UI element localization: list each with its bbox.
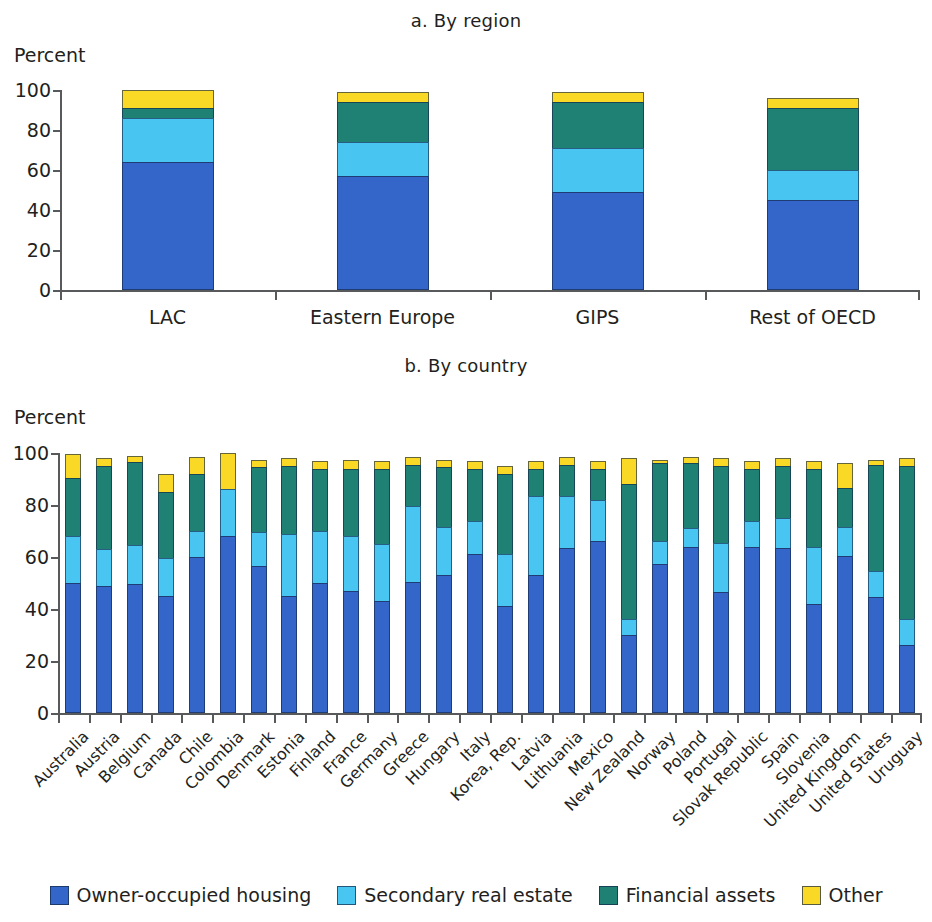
bar-segment	[312, 531, 328, 583]
stacked-bar	[374, 461, 390, 713]
bar-segment	[374, 461, 390, 469]
bar-segment	[767, 170, 859, 200]
x-axis-tick	[212, 715, 214, 723]
bar-segment	[806, 547, 822, 604]
bar-segment	[899, 466, 915, 619]
x-axis-category-label: Rest of OECD	[749, 306, 876, 328]
x-axis-tick	[768, 715, 770, 723]
legend-swatch-icon	[337, 886, 356, 905]
bar-segment	[220, 453, 236, 489]
bar-segment	[683, 528, 699, 546]
y-axis-tick	[51, 453, 58, 455]
y-axis-tick	[51, 661, 58, 663]
bar-segment	[590, 541, 606, 713]
y-axis-tick-label: 60	[27, 161, 51, 180]
x-axis-category-label: LAC	[149, 306, 186, 328]
bar-segment	[713, 592, 729, 713]
x-axis-tick	[60, 292, 62, 300]
bar-segment	[497, 466, 513, 474]
bar-segment	[158, 492, 174, 558]
x-axis-tick	[552, 715, 554, 723]
bar-segment	[899, 619, 915, 645]
x-axis-category-label: GIPS	[576, 306, 620, 328]
bar-segment	[122, 118, 214, 162]
x-axis-tick	[675, 715, 677, 723]
bar-segment	[343, 469, 359, 537]
bar-segment	[590, 500, 606, 542]
bar-segment	[552, 92, 644, 102]
y-axis-tick-label: 40	[27, 201, 51, 220]
bar-segment	[528, 469, 544, 496]
y-axis-tick-label: 100	[15, 81, 51, 100]
bar-segment	[467, 521, 483, 555]
x-axis-tick	[521, 715, 523, 723]
bar-segment	[899, 645, 915, 713]
stacked-bar	[312, 461, 328, 713]
bar-segment	[528, 575, 544, 713]
bar-segment	[467, 469, 483, 521]
bar-segment	[621, 635, 637, 713]
bar-segment	[122, 162, 214, 290]
stacked-bar	[683, 457, 699, 713]
bar-segment	[559, 496, 575, 548]
bar-segment	[158, 474, 174, 492]
x-axis-tick	[860, 715, 862, 723]
bar-segment	[497, 606, 513, 713]
stacked-bar	[899, 458, 915, 713]
bar-segment	[405, 506, 421, 581]
bar-segment	[374, 601, 390, 713]
bar-segment	[337, 142, 429, 176]
bar-segment	[251, 532, 267, 566]
legend-item: Owner-occupied housing	[50, 884, 312, 906]
x-axis-tick	[58, 715, 60, 723]
stacked-bar	[497, 466, 513, 713]
bar-segment	[65, 583, 81, 713]
bar-segment	[436, 527, 452, 575]
bar-segment	[713, 543, 729, 592]
bar-segment	[96, 466, 112, 549]
legend-swatch-icon	[599, 886, 618, 905]
x-axis-tick	[428, 715, 430, 723]
stacked-bar	[775, 458, 791, 713]
stacked-bar	[96, 458, 112, 713]
bar-segment	[96, 586, 112, 713]
stacked-bar-figure: a. By region Percent 020406080100LACEast…	[0, 0, 932, 922]
bar-segment	[343, 536, 359, 591]
bar-segment	[868, 597, 884, 713]
x-axis-tick	[644, 715, 646, 723]
bar-segment	[405, 457, 421, 465]
bar-segment	[251, 460, 267, 468]
legend-item: Other	[802, 884, 883, 906]
y-axis-tick-label: 20	[27, 241, 51, 260]
bar-segment	[127, 545, 143, 584]
bar-segment	[559, 457, 575, 465]
x-axis-tick	[459, 715, 461, 723]
bar-segment	[767, 200, 859, 290]
x-axis-tick	[829, 715, 831, 723]
x-axis-tick	[181, 715, 183, 723]
y-axis-tick	[51, 557, 58, 559]
bar-segment	[189, 531, 205, 557]
bar-segment	[621, 458, 637, 484]
bar-segment	[467, 461, 483, 469]
bar-segment	[528, 496, 544, 575]
stacked-bar	[122, 90, 214, 290]
bar-segment	[683, 547, 699, 713]
legend-swatch-icon	[50, 886, 69, 905]
y-axis-tick-label: 80	[27, 121, 51, 140]
stacked-bar	[590, 461, 606, 713]
bar-segment	[343, 591, 359, 713]
bar-segment	[220, 489, 236, 536]
bar-segment	[312, 461, 328, 469]
bar-segment	[405, 465, 421, 507]
x-axis-tick	[490, 715, 492, 723]
bar-segment	[281, 466, 297, 534]
stacked-bar	[158, 474, 174, 713]
x-axis-tick	[89, 715, 91, 723]
stacked-bar	[767, 98, 859, 290]
bar-segment	[405, 582, 421, 713]
bar-segment	[374, 544, 390, 601]
x-axis-tick	[918, 292, 920, 300]
stacked-bar	[343, 460, 359, 713]
panel-b-y-axis-unit-label: Percent	[14, 406, 86, 428]
